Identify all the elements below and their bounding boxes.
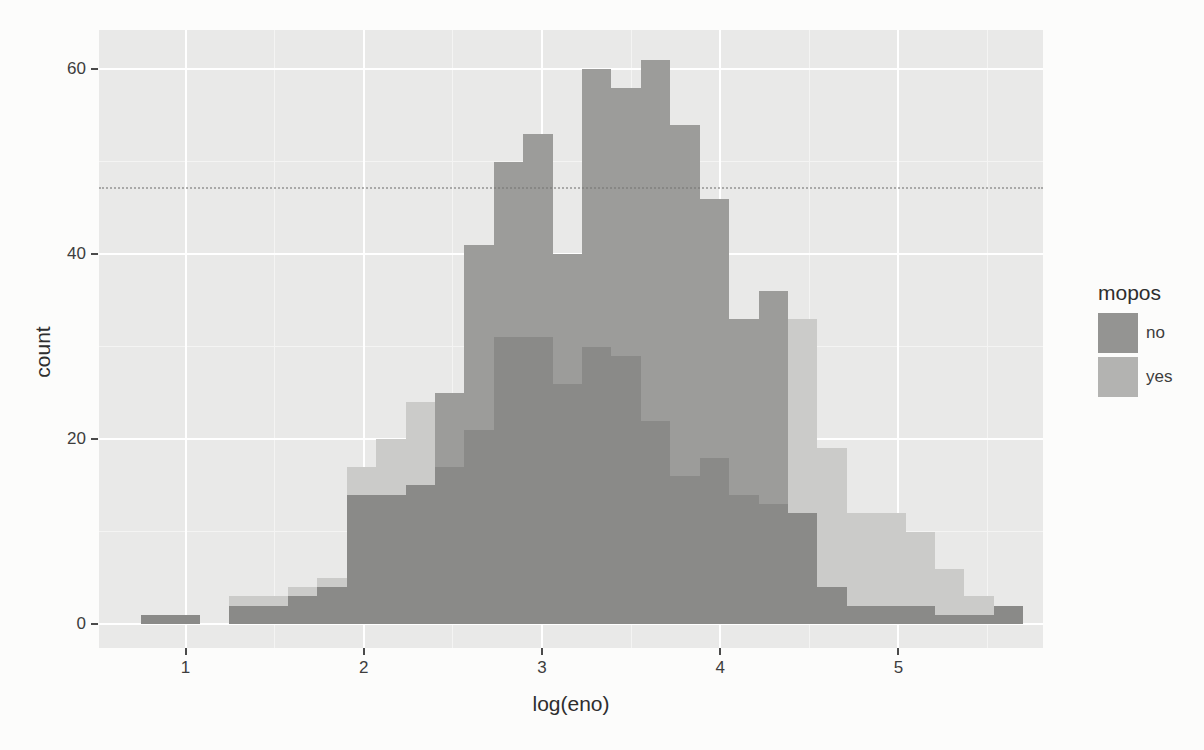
histogram-bar-segment-no bbox=[759, 291, 788, 504]
gridline-x-minor bbox=[274, 30, 275, 648]
histogram-bar-segment-overlap bbox=[847, 606, 876, 625]
legend-label-no: no bbox=[1146, 323, 1165, 343]
y-axis-title: count bbox=[31, 326, 55, 377]
y-tick-label: 40 bbox=[46, 244, 86, 264]
histogram-bar-segment-yes bbox=[788, 319, 817, 513]
histogram-bar-segment-no bbox=[523, 134, 552, 338]
histogram-bar-segment-yes bbox=[906, 532, 935, 606]
histogram-bar-segment-overlap bbox=[435, 467, 464, 624]
histogram-bar-segment-overlap bbox=[288, 596, 317, 624]
histogram-bar-segment-yes bbox=[288, 587, 317, 596]
y-tick-label: 20 bbox=[46, 429, 86, 449]
histogram-bar-segment-overlap bbox=[317, 587, 346, 624]
gridline-y-major bbox=[99, 68, 1043, 70]
legend-swatch-no bbox=[1098, 313, 1138, 353]
histogram-bar-segment-overlap bbox=[523, 337, 552, 624]
histogram-bar-segment-yes bbox=[376, 439, 405, 495]
histogram-bar-segment-yes bbox=[406, 402, 435, 485]
histogram-bar-segment-overlap bbox=[141, 615, 170, 624]
x-tick-label: 4 bbox=[715, 658, 724, 678]
legend-item-no: no bbox=[1096, 313, 1204, 353]
histogram-bar-segment-yes bbox=[847, 513, 876, 606]
histogram-bar-segment-no bbox=[553, 254, 582, 384]
histogram-bar-segment-no bbox=[464, 245, 493, 430]
x-tick-mark bbox=[897, 648, 899, 655]
y-tick-mark bbox=[91, 623, 98, 625]
y-tick-label: 60 bbox=[46, 59, 86, 79]
y-tick-mark bbox=[91, 253, 98, 255]
legend-title: mopos bbox=[1098, 280, 1204, 305]
y-tick-mark bbox=[91, 68, 98, 70]
x-tick-mark bbox=[363, 648, 365, 655]
plot-panel bbox=[99, 30, 1043, 648]
histogram-bar-segment-no bbox=[611, 88, 640, 356]
x-tick-label: 5 bbox=[894, 658, 903, 678]
histogram-bar-segment-overlap bbox=[347, 495, 376, 625]
x-axis-title: log(eno) bbox=[532, 692, 609, 716]
histogram-bar-segment-overlap bbox=[906, 606, 935, 625]
x-tick-label: 1 bbox=[181, 658, 190, 678]
histogram-bar-segment-overlap bbox=[788, 513, 817, 624]
legend-label-yes: yes bbox=[1146, 367, 1172, 387]
x-tick-mark bbox=[719, 648, 721, 655]
gridline-x-major bbox=[185, 30, 187, 648]
legend-swatch-yes bbox=[1098, 357, 1138, 397]
histogram-bar-segment-overlap bbox=[406, 485, 435, 624]
y-tick-label: 0 bbox=[46, 614, 86, 634]
x-tick-mark bbox=[541, 648, 543, 655]
histogram-bar-segment-overlap bbox=[229, 606, 258, 625]
histogram-bar-segment-overlap bbox=[935, 615, 964, 624]
histogram-bar-segment-overlap bbox=[376, 495, 405, 625]
histogram-bar-segment-overlap bbox=[729, 495, 758, 625]
histogram-bar-segment-overlap bbox=[494, 337, 523, 624]
histogram-bar-segment-overlap bbox=[817, 587, 846, 624]
histogram-bar-segment-overlap bbox=[170, 615, 199, 624]
histogram-bar-segment-yes bbox=[876, 513, 905, 606]
histogram-bar-segment-yes bbox=[817, 448, 846, 587]
legend: mopos no yes bbox=[1096, 280, 1204, 401]
histogram-bar-segment-overlap bbox=[876, 606, 905, 625]
histogram-bar-segment-overlap bbox=[994, 606, 1023, 625]
histogram-bar-segment-no bbox=[435, 393, 464, 467]
histogram-bar-segment-no bbox=[670, 125, 699, 477]
histogram-bar-segment-overlap bbox=[641, 421, 670, 625]
x-tick-label: 3 bbox=[537, 658, 546, 678]
histogram-bar-segment-yes bbox=[964, 596, 993, 615]
histogram-bar-segment-yes bbox=[317, 578, 346, 587]
gridline-x-minor bbox=[987, 30, 988, 648]
histogram-bar-segment-yes bbox=[347, 467, 376, 495]
histogram-bar-segment-yes bbox=[259, 596, 288, 605]
histogram-bar-segment-no bbox=[641, 60, 670, 421]
y-tick-mark bbox=[91, 438, 98, 440]
histogram-bar-segment-overlap bbox=[670, 476, 699, 624]
histogram-bar-segment-overlap bbox=[553, 384, 582, 625]
histogram-bar-segment-overlap bbox=[259, 606, 288, 625]
histogram-figure: 12345 0204060 log(eno) count mopos no ye… bbox=[0, 0, 1204, 750]
histogram-bar-segment-overlap bbox=[611, 356, 640, 624]
histogram-bar-segment-overlap bbox=[964, 615, 993, 624]
histogram-bar-segment-yes bbox=[935, 569, 964, 615]
histogram-bar-segment-overlap bbox=[700, 458, 729, 625]
histogram-bar-segment-no bbox=[582, 69, 611, 347]
x-tick-mark bbox=[185, 648, 187, 655]
histogram-bar-segment-no bbox=[700, 199, 729, 458]
x-tick-label: 2 bbox=[359, 658, 368, 678]
histogram-bar-segment-overlap bbox=[582, 347, 611, 625]
gridline-y-minor bbox=[99, 161, 1043, 162]
scan-artifact-dotted-line bbox=[99, 187, 1043, 189]
histogram-bar-segment-overlap bbox=[759, 504, 788, 624]
legend-item-yes: yes bbox=[1096, 357, 1204, 397]
histogram-bar-segment-yes bbox=[229, 596, 258, 605]
histogram-bar-segment-no bbox=[729, 319, 758, 495]
histogram-bar-segment-overlap bbox=[464, 430, 493, 624]
